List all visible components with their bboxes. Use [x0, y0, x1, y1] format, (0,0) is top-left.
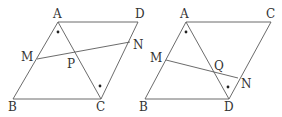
- point-label-P: P: [67, 57, 75, 71]
- point-label-M: M: [150, 51, 162, 65]
- segment-DC: [101, 22, 138, 99]
- point-label-Q: Q: [214, 59, 224, 73]
- segment-AC: [58, 22, 101, 99]
- segment-MN: [37, 42, 130, 59]
- parallelogram-figure-right: ACBDMNQ: [139, 7, 275, 114]
- parallelogram-figure-left: ADBCMNP: [8, 7, 145, 114]
- point-label-D: D: [135, 7, 145, 21]
- point-label-A: A: [179, 7, 189, 21]
- angle-mark-dot: [227, 86, 230, 89]
- segment-AB: [13, 22, 58, 99]
- point-label-D: D: [224, 100, 234, 114]
- segment-MN: [166, 60, 238, 78]
- point-label-N: N: [133, 38, 144, 52]
- point-label-B: B: [139, 100, 148, 114]
- point-label-B: B: [8, 100, 17, 114]
- angle-mark-dot: [99, 85, 102, 88]
- angle-mark-dot: [57, 31, 60, 34]
- point-label-C: C: [96, 100, 105, 114]
- angle-mark-dot: [185, 31, 188, 34]
- point-label-N: N: [241, 77, 252, 91]
- point-label-M: M: [21, 50, 33, 64]
- point-label-C: C: [266, 7, 275, 21]
- point-label-A: A: [52, 7, 62, 21]
- geometry-diagram: ADBCMNP ACBDMNQ: [0, 0, 282, 117]
